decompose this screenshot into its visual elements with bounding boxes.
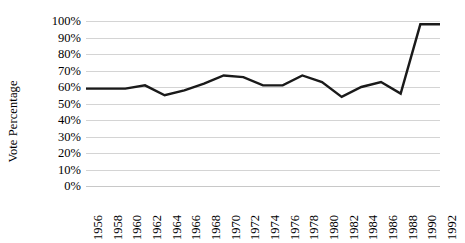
x-tick-label: 1988 [406,188,420,240]
x-tick-label: 1960 [130,188,144,240]
x-tick-label: 1984 [366,188,380,240]
y-axis-title: Vote Percentage [0,0,26,243]
x-tick-label: 1974 [268,188,282,240]
x-tick-label: 1982 [347,188,361,240]
x-tick-label: 1958 [111,188,125,240]
x-axis-tick-labels: 1956195819601962196419661968197019721974… [86,188,440,243]
chart-container: Vote Percentage 100%90%80%70%60%50%40%30… [0,0,465,243]
x-tick-label: 1956 [91,188,105,240]
x-tick-label: 1990 [425,188,439,240]
y-tick-label: 30% [58,130,81,144]
x-tick-label: 1978 [307,188,321,240]
y-tick-label: 60% [58,80,81,94]
x-tick-label: 1962 [150,188,164,240]
x-tick-label: 1976 [288,188,302,240]
plot-area [86,21,440,186]
x-tick-label: 1970 [229,188,243,240]
y-tick-label: 20% [58,146,81,160]
data-series-line [86,21,440,186]
vote-percentage-line [86,24,440,97]
y-axis-tick-labels: 100%90%80%70%60%50%40%30%20%10%0% [30,14,84,193]
y-tick-label: 70% [58,64,81,78]
y-tick-label: 10% [58,163,81,177]
x-tick-label: 1972 [248,188,262,240]
x-axis-line [86,186,440,187]
y-tick-label: 100% [52,14,81,28]
x-tick-label: 1992 [445,188,459,240]
y-tick-label: 50% [58,97,81,111]
y-tick-label: 80% [58,47,81,61]
x-tick-label: 1986 [386,188,400,240]
x-tick-label: 1964 [170,188,184,240]
x-tick-label: 1980 [327,188,341,240]
y-tick-label: 0% [64,179,81,193]
x-tick-label: 1966 [189,188,203,240]
y-tick-label: 40% [58,113,81,127]
x-tick-label: 1968 [209,188,223,240]
y-tick-label: 90% [58,31,81,45]
